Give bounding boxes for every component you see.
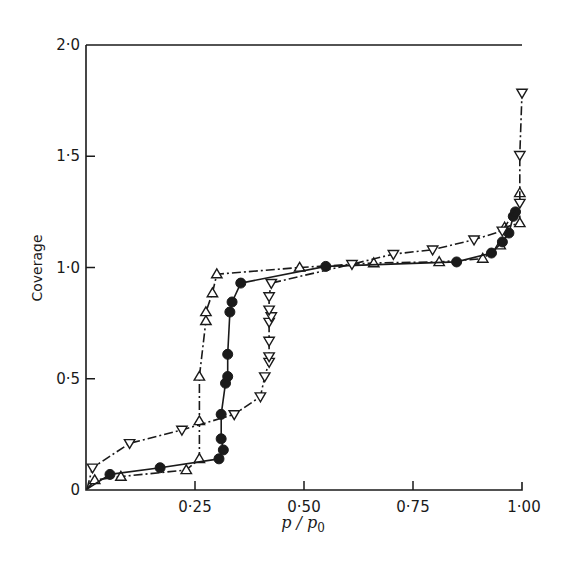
data-point-triangle-down — [515, 151, 525, 160]
data-point-triangle-down — [266, 279, 276, 288]
series-circle — [87, 207, 520, 489]
x-tick-label: 1·00 — [507, 498, 540, 516]
adsorption-isotherm-chart: 00·51·01·52·00·250·500·751·00 Coverage p… — [0, 0, 566, 568]
data-point-triangle-down — [517, 89, 527, 98]
data-point-triangle-up — [201, 316, 211, 325]
data-point-triangle-down — [124, 440, 134, 449]
data-point-filled-circle — [497, 237, 507, 247]
y-axis-title: Coverage — [29, 234, 45, 301]
data-point-filled-circle — [227, 297, 237, 307]
y-tick-label: 1·5 — [56, 147, 80, 165]
data-point-triangle-down — [260, 373, 270, 382]
x-axis-title-subscript: 0 — [317, 521, 325, 535]
data-point-triangle-down — [469, 236, 479, 245]
data-point-filled-circle — [218, 445, 228, 455]
data-point-triangle-down — [87, 464, 97, 473]
series-layer — [87, 89, 527, 489]
series-triangle-down — [87, 89, 527, 489]
y-tick-label: 0·5 — [56, 370, 80, 388]
series-triangle-up — [87, 188, 525, 489]
x-tick-label: 0·75 — [396, 498, 429, 516]
series-line — [87, 93, 522, 489]
data-point-triangle-down — [177, 426, 187, 435]
x-axis-title-main: p / p — [281, 513, 317, 532]
data-point-filled-circle — [223, 349, 233, 359]
data-point-triangle-up — [201, 307, 211, 316]
data-point-triangle-up — [194, 371, 204, 380]
x-tick-label: 0·25 — [178, 498, 211, 516]
data-point-filled-circle — [452, 257, 462, 267]
data-point-filled-circle — [225, 307, 235, 317]
data-point-triangle-up — [207, 288, 217, 297]
data-point-filled-circle — [510, 207, 520, 217]
data-point-filled-circle — [236, 278, 246, 288]
y-tick-label: 0 — [70, 481, 80, 499]
data-point-triangle-down — [264, 293, 274, 302]
data-point-triangle-down — [255, 393, 265, 402]
y-tick-label: 1·0 — [56, 259, 80, 277]
x-axis-title: p / p0 — [281, 513, 325, 535]
series-line — [87, 212, 516, 489]
data-point-filled-circle — [216, 434, 226, 444]
data-point-filled-circle — [155, 463, 165, 473]
y-tick-label: 2·0 — [56, 36, 80, 54]
series-line — [87, 193, 520, 489]
data-point-filled-circle — [105, 469, 115, 479]
data-point-filled-circle — [223, 372, 233, 382]
data-point-filled-circle — [486, 248, 496, 258]
data-point-triangle-down — [264, 337, 274, 346]
